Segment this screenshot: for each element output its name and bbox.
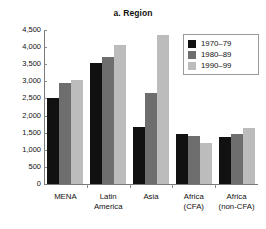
bar[interactable]: [145, 93, 157, 184]
legend-label: 1970–79: [201, 39, 231, 48]
bar[interactable]: [157, 35, 169, 184]
x-axis-tick-mark: [87, 184, 88, 188]
legend-item[interactable]: 1980–89: [188, 49, 254, 60]
y-axis-tick-mark: [44, 98, 47, 99]
legend-swatch-icon: [188, 40, 196, 48]
y-axis-tick-mark: [44, 81, 47, 82]
x-axis-category-label: Latin America: [87, 192, 130, 212]
bar[interactable]: [90, 63, 102, 184]
y-axis-tick-mark: [44, 133, 47, 134]
bar-group: [133, 30, 169, 184]
bar[interactable]: [188, 136, 200, 184]
x-axis-category-label: Africa (non-CFA): [215, 192, 258, 212]
bar[interactable]: [219, 137, 231, 184]
y-axis-tick-label: 1,000: [3, 146, 41, 154]
x-axis-category-label: Africa (CFA): [172, 192, 215, 212]
x-axis-category-label: Asia: [130, 192, 173, 202]
bar[interactable]: [71, 80, 83, 184]
y-axis-tick-label: 500: [3, 163, 41, 171]
y-axis-tick-label: 3,000: [3, 77, 41, 85]
y-axis-tick-label: 4,500: [3, 26, 41, 34]
bar-group: [47, 30, 83, 184]
y-axis-tick-mark: [44, 30, 47, 31]
y-axis-tick-mark: [44, 167, 47, 168]
legend-swatch-icon: [188, 62, 196, 70]
legend-label: 1990–99: [201, 61, 231, 70]
x-axis-line: [44, 184, 258, 185]
bar[interactable]: [200, 143, 212, 184]
x-axis-category-label: MENA: [44, 192, 87, 202]
y-axis-tick-mark: [44, 64, 47, 65]
y-axis-tick-label: 2,500: [3, 94, 41, 102]
bar[interactable]: [114, 45, 126, 184]
bar[interactable]: [47, 98, 59, 184]
x-axis-tick-mark: [215, 184, 216, 188]
y-axis-tick-label: 4,000: [3, 43, 41, 51]
y-axis-tick-mark: [44, 150, 47, 151]
bar[interactable]: [231, 134, 243, 184]
bar[interactable]: [59, 83, 71, 184]
y-axis-tick-label: 0: [3, 180, 41, 188]
bar[interactable]: [102, 57, 114, 184]
legend-item[interactable]: 1990–99: [188, 60, 254, 71]
y-axis-tick-label: 1,500: [3, 129, 41, 137]
bar-chart: a. Region 05001,0001,5002,0002,5003,0003…: [0, 0, 266, 229]
y-axis-tick-mark: [44, 47, 47, 48]
x-axis-tick-mark: [172, 184, 173, 188]
bar-group: [90, 30, 126, 184]
bar[interactable]: [133, 127, 145, 184]
legend-swatch-icon: [188, 51, 196, 59]
y-axis-tick-label: 3,500: [3, 60, 41, 68]
bar[interactable]: [243, 128, 255, 184]
bar[interactable]: [176, 134, 188, 184]
y-axis-tick-label: 2,000: [3, 112, 41, 120]
chart-legend: 1970–791980–891990–99: [183, 34, 259, 75]
y-axis-tick-labels: 05001,0001,5002,0002,5003,0003,5004,0004…: [0, 30, 41, 184]
chart-title: a. Region: [0, 8, 266, 18]
x-axis-tick-mark: [130, 184, 131, 188]
legend-item[interactable]: 1970–79: [188, 38, 254, 49]
legend-label: 1980–89: [201, 50, 231, 59]
y-axis-tick-mark: [44, 116, 47, 117]
